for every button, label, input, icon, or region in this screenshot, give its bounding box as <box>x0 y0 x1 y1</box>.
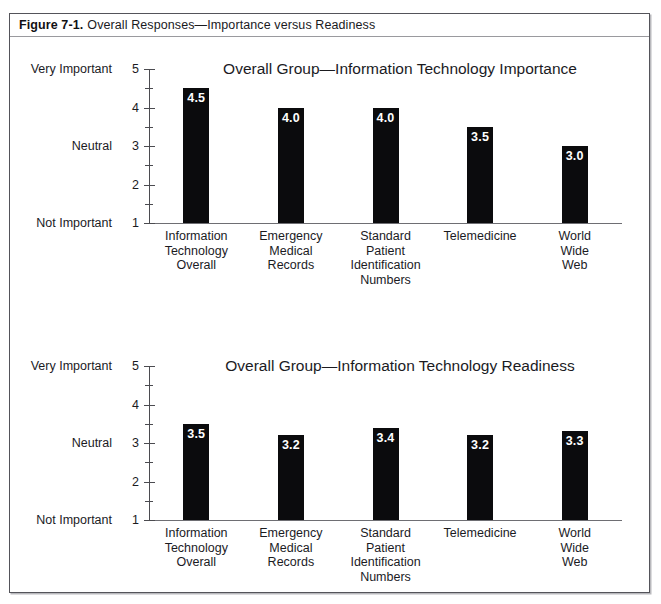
x-category-label: EmergencyMedicalRecords <box>239 229 343 273</box>
x-category-label: InformationTechnologyOverall <box>144 229 248 273</box>
bar: 4.0 <box>278 108 304 224</box>
bar-value-label: 3.2 <box>467 438 493 452</box>
y-tick-major <box>144 185 155 186</box>
figure-frame: Figure 7-1. Overall Responses—Importance… <box>9 13 650 593</box>
y-tick-label: 4 <box>117 398 139 412</box>
bar: 3.5 <box>183 424 209 520</box>
y-tick-label: 1 <box>117 216 139 230</box>
y-tick-major <box>144 405 155 406</box>
bar: 3.2 <box>278 435 304 520</box>
y-tick-label: 5 <box>117 62 139 76</box>
y-tick-label: 3 <box>117 139 139 153</box>
bar-value-label: 4.5 <box>183 91 209 105</box>
y-tick-label: 2 <box>117 475 139 489</box>
y-tick-minor <box>145 385 153 386</box>
bar: 4.0 <box>373 108 399 224</box>
bar-value-label: 3.0 <box>562 149 588 163</box>
bar-value-label: 3.2 <box>278 438 304 452</box>
y-anchor-not-important: Not Important <box>14 513 112 527</box>
y-tick-major <box>144 108 155 109</box>
bar: 3.4 <box>373 428 399 520</box>
bar: 3.3 <box>562 431 588 520</box>
chart-readiness: Overall Group—Information Technology Rea… <box>10 344 651 604</box>
y-tick-minor <box>145 424 153 425</box>
figure-caption-bar: Figure 7-1. Overall Responses—Importance… <box>10 14 649 37</box>
x-category-label: WorldWideWeb <box>523 526 627 570</box>
chart-importance: Overall Group—Information Technology Imp… <box>10 47 651 317</box>
bar-value-label: 3.4 <box>373 431 399 445</box>
bar-value-label: 4.0 <box>278 111 304 125</box>
bar-value-label: 3.5 <box>183 427 209 441</box>
y-anchor-not-important: Not Important <box>14 216 112 230</box>
y-tick-major <box>144 520 155 521</box>
y-anchor-neutral: Neutral <box>14 139 112 153</box>
bar-value-label: 3.3 <box>562 434 588 448</box>
y-tick-minor <box>145 501 153 502</box>
x-axis-line-readiness <box>149 520 622 521</box>
y-anchor-neutral: Neutral <box>14 436 112 450</box>
x-category-label: StandardPatientIdentificationNumbers <box>334 229 438 287</box>
y-tick-minor <box>145 462 153 463</box>
bar: 3.5 <box>467 127 493 223</box>
y-tick-label: 2 <box>117 178 139 192</box>
y-tick-major <box>144 146 155 147</box>
x-category-label: Telemedicine <box>428 229 532 244</box>
x-category-label: Telemedicine <box>428 526 532 541</box>
figure-number: Figure 7-1. <box>19 18 83 32</box>
y-tick-major <box>144 366 155 367</box>
y-anchor-very-important: Very Important <box>14 62 112 76</box>
y-tick-major <box>144 223 155 224</box>
plot-area-readiness: 12345Very ImportantNeutralNot Important3… <box>10 344 651 604</box>
bar-value-label: 4.0 <box>373 111 399 125</box>
x-category-label: InformationTechnologyOverall <box>144 526 248 570</box>
y-tick-minor <box>145 165 153 166</box>
y-tick-label: 3 <box>117 436 139 450</box>
bar: 4.5 <box>183 88 209 223</box>
figure-caption-text: Overall Responses—Importance versus Read… <box>87 18 375 32</box>
y-anchor-very-important: Very Important <box>14 359 112 373</box>
y-tick-label: 5 <box>117 359 139 373</box>
x-axis-line-importance <box>149 223 622 224</box>
plot-area-importance: 12345Very ImportantNeutralNot Important4… <box>10 47 651 317</box>
y-tick-minor <box>145 88 153 89</box>
y-tick-label: 4 <box>117 101 139 115</box>
y-tick-major <box>144 482 155 483</box>
y-tick-label: 1 <box>117 513 139 527</box>
y-tick-major <box>144 443 155 444</box>
y-tick-minor <box>145 127 153 128</box>
x-category-label: StandardPatientIdentificationNumbers <box>334 526 438 584</box>
x-category-label: EmergencyMedicalRecords <box>239 526 343 570</box>
y-tick-minor <box>145 204 153 205</box>
bar: 3.2 <box>467 435 493 520</box>
x-category-label: WorldWideWeb <box>523 229 627 273</box>
page-top-margin <box>0 0 661 10</box>
bar-value-label: 3.5 <box>467 130 493 144</box>
y-tick-major <box>144 69 155 70</box>
bar: 3.0 <box>562 146 588 223</box>
